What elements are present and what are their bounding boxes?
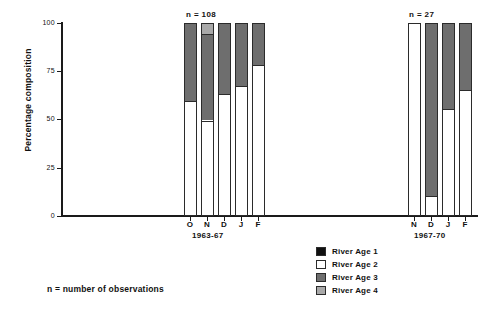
bar-segment-age2 <box>460 90 471 216</box>
bar-1963-67-F <box>252 23 265 216</box>
chart-figure: 100 75 50 25 0 Percentage composition n … <box>0 0 483 311</box>
bar-1967-70-D <box>425 23 438 216</box>
legend-swatch-icon <box>316 260 326 269</box>
y-tick-mark-50 <box>57 119 61 120</box>
period-label-1967-70: 1967-70 <box>414 231 445 240</box>
bar-1963-67-O <box>184 23 197 216</box>
legend-label: River Age 2 <box>332 260 378 269</box>
bar-segment-age3 <box>185 24 196 101</box>
legend-label: River Age 4 <box>332 286 378 295</box>
bar-segment-age2 <box>219 94 230 217</box>
x-label-1963-67-F: F <box>251 220 265 229</box>
bar-1963-67-N <box>201 23 214 216</box>
y-tick-mark-75 <box>57 71 61 72</box>
legend-swatch-icon <box>316 273 326 282</box>
legend: River Age 1 River Age 2 River Age 3 Rive… <box>316 245 378 297</box>
bar-segment-age2 <box>202 121 213 217</box>
bar-segment-age2 <box>253 65 264 217</box>
legend-swatch-icon <box>316 247 326 256</box>
legend-item-river-age-3: River Age 3 <box>316 271 378 283</box>
legend-label: River Age 1 <box>332 247 378 256</box>
period-label-1963-67: 1963-67 <box>192 231 223 240</box>
footnote: n = number of observations <box>47 284 164 294</box>
bar-segment-age3 <box>219 24 230 94</box>
bar-1967-70-N <box>408 23 421 216</box>
y-tick-mark-100 <box>57 23 61 24</box>
bar-1967-70-J <box>442 23 455 216</box>
bar-segment-age3 <box>460 24 471 90</box>
bar-segment-age3 <box>253 24 264 65</box>
x-label-1963-67-N: N <box>200 220 214 229</box>
bar-1963-67-J <box>235 23 248 216</box>
bar-segment-age2 <box>426 196 437 216</box>
x-label-1967-70-J: J <box>441 220 455 229</box>
bar-segment-age2 <box>409 24 420 216</box>
y-tick-mark-0 <box>57 216 61 217</box>
y-tick-label-0: 0 <box>29 212 55 219</box>
bar-1963-67-D <box>218 23 231 216</box>
bar-1967-70-F <box>459 23 472 216</box>
bar-segment-age3 <box>426 24 437 196</box>
bar-segment-age4 <box>202 24 213 34</box>
bar-segment-age2 <box>443 109 454 216</box>
group2-n-label: n = 27 <box>409 10 434 19</box>
x-label-1963-67-J: J <box>234 220 248 229</box>
legend-label: River Age 3 <box>332 273 378 282</box>
y-tick-mark-25 <box>57 168 61 169</box>
bar-segment-age3 <box>202 34 213 121</box>
legend-item-river-age-1: River Age 1 <box>316 245 378 257</box>
x-label-1967-70-F: F <box>458 220 472 229</box>
bar-segment-age3 <box>236 24 247 86</box>
legend-item-river-age-4: River Age 4 <box>316 284 378 296</box>
legend-swatch-icon <box>316 286 326 295</box>
group1-n-label: n = 108 <box>186 10 216 19</box>
bar-segment-age3 <box>443 24 454 109</box>
x-label-1967-70-N: N <box>407 220 421 229</box>
x-label-1963-67-O: O <box>183 220 197 229</box>
bar-segment-age2 <box>236 86 247 216</box>
y-axis-line <box>61 22 63 217</box>
x-label-1963-67-D: D <box>217 220 231 229</box>
legend-item-river-age-2: River Age 2 <box>316 258 378 270</box>
x-label-1967-70-D: D <box>424 220 438 229</box>
y-axis-title: Percentage composition <box>23 10 33 190</box>
bar-segment-age2 <box>185 101 196 216</box>
